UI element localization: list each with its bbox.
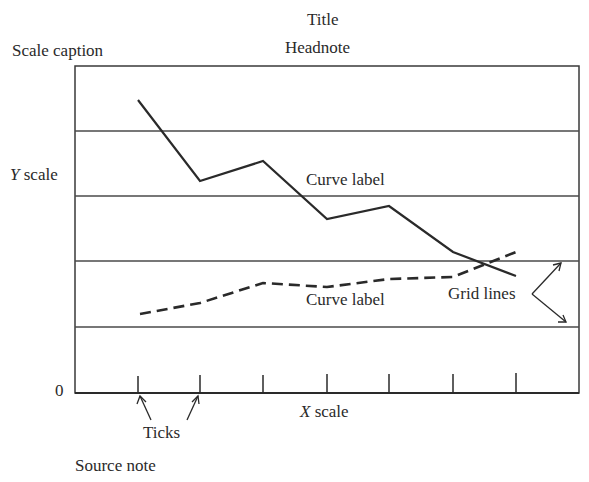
headnote: Headnote [285, 39, 350, 56]
arrow-line [140, 396, 151, 420]
y-scale-text: scale [19, 165, 57, 184]
chart-title: Title [307, 11, 339, 28]
ticks-arrows [137, 396, 199, 420]
arrow-line [187, 396, 198, 420]
y-scale-label: Y scale [10, 166, 58, 183]
arrow-line [532, 263, 561, 294]
curve-label-solid: Curve label [306, 171, 385, 188]
grid-lines-label: Grid lines [448, 285, 516, 302]
x-scale-text: scale [310, 402, 348, 421]
source-note: Source note [75, 457, 156, 474]
x-scale-label: X scale [300, 403, 349, 420]
chart-svg [0, 0, 589, 482]
x-scale-letter: X [300, 402, 310, 421]
grid-lines-arrows [532, 263, 566, 322]
ticks-label: Ticks [143, 424, 180, 441]
x-ticks [138, 373, 516, 393]
arrow-line [532, 294, 566, 322]
curve-label-dashed: Curve label [306, 291, 385, 308]
zero-label: 0 [55, 382, 64, 399]
scale-caption: Scale caption [12, 42, 103, 59]
